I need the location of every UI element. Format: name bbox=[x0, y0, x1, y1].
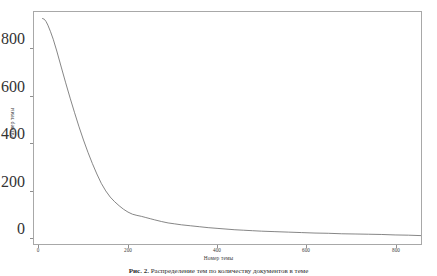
xtick-label-0: 0 bbox=[37, 247, 40, 253]
ytick-mark-200 bbox=[30, 191, 33, 192]
xtick-label-600: 600 bbox=[302, 247, 310, 253]
figure-caption: Рис. 2. Распределение тем по количеству … bbox=[0, 267, 437, 275]
xtick-label-800: 800 bbox=[392, 247, 400, 253]
ytick-mark-800 bbox=[30, 48, 33, 49]
plot-area bbox=[33, 11, 422, 245]
xtick-label-400: 400 bbox=[213, 247, 221, 253]
x-axis-label: Номер темы bbox=[0, 255, 437, 261]
ytick-mark-600 bbox=[30, 96, 33, 97]
figure-container: 0 200 400 600 800 0 200 400 600 800 Номе… bbox=[0, 0, 437, 276]
data-series-line bbox=[43, 19, 421, 236]
y-axis-label-wrapper: Размер темы bbox=[5, 0, 19, 245]
figure-caption-number: Рис. 2. bbox=[129, 267, 149, 275]
xtick-label-200: 200 bbox=[124, 247, 132, 253]
ytick-mark-400 bbox=[30, 143, 33, 144]
line-chart-svg bbox=[34, 12, 421, 244]
ytick-mark-0 bbox=[30, 238, 33, 239]
figure-caption-text: Распределение тем по количеству документ… bbox=[151, 267, 309, 275]
y-axis-label: Размер темы bbox=[9, 107, 15, 138]
